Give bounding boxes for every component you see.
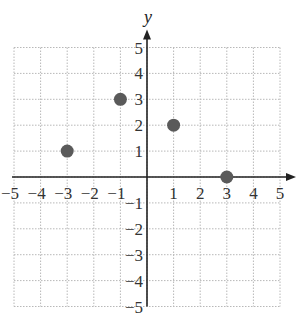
y-tick-label: 3 [135,90,144,109]
x-axis-arrow-icon [286,173,296,181]
x-tick-label: 5 [276,184,285,203]
y-tick-label: −3 [125,246,143,265]
x-tick-label: 2 [196,184,205,203]
data-point [114,93,127,106]
x-tick-label: −2 [81,184,99,203]
y-tick-label: −1 [125,194,143,213]
y-tick-label: 4 [135,64,144,83]
x-tick-label: 4 [249,184,258,203]
y-axis-arrow-icon [143,30,151,40]
y-tick-label: 5 [135,39,144,58]
y-axis-label: y [142,7,152,27]
coordinate-plane: −5−4−3−2−112345 −5−4−3−2−112345 y [0,0,296,316]
data-point [167,119,180,132]
y-tick-label: −4 [125,272,144,291]
data-point [61,145,74,158]
y-tick-label: −2 [125,220,143,239]
x-tick-label: −4 [28,184,47,203]
x-tick-label: 1 [169,184,178,203]
x-tick-label: −1 [107,184,125,203]
y-tick-label: 1 [135,142,144,161]
x-tick-label: 3 [223,184,232,203]
y-tick-label: 2 [135,116,144,135]
y-tick-label: −5 [125,298,143,316]
x-tick-label: −3 [54,184,72,203]
x-tick-label: −5 [1,184,19,203]
data-point [220,171,233,184]
